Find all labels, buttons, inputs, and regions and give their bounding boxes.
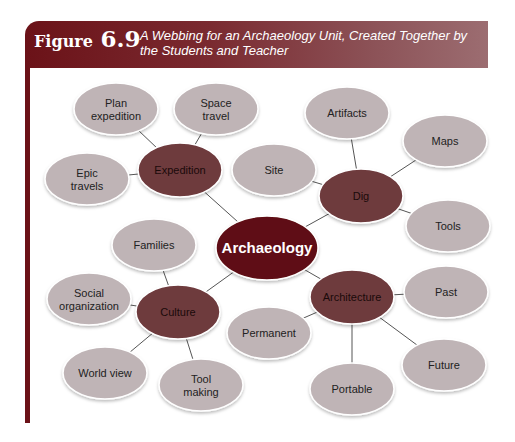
- leaf-node-world-view-label: World view: [78, 367, 132, 379]
- subtopic-node-dig-label: Dig: [353, 190, 370, 202]
- center-node-archaeology-label: Archaeology: [222, 239, 314, 256]
- leaf-node-tool-making-label: Tool: [191, 373, 211, 385]
- leaf-node-social-organization-label: Social: [74, 287, 104, 299]
- leaf-node-future-label: Future: [428, 359, 460, 371]
- subtopic-node-culture-label: Culture: [160, 306, 195, 318]
- leaf-node-space-travel: Spacetravel: [174, 83, 258, 135]
- leaf-node-artifacts: Artifacts: [305, 87, 389, 139]
- leaf-node-permanent: Permanent: [227, 307, 311, 359]
- leaf-node-plan-expedition-label: expedition: [91, 110, 141, 122]
- webbing-diagram: PlanexpeditionSpacetravelEpictravelsArti…: [0, 0, 515, 442]
- subtopic-node-expedition-label: Expedition: [154, 164, 205, 176]
- leaf-node-plan-expedition-label: Plan: [105, 97, 127, 109]
- leaf-node-site-label: Site: [265, 164, 284, 176]
- leaf-node-tools-label: Tools: [435, 220, 461, 232]
- subtopic-node-dig: Dig: [319, 169, 403, 223]
- leaf-node-social-organization: Socialorganization: [47, 273, 131, 325]
- leaf-node-tool-making-label: making: [183, 386, 218, 398]
- center-node-archaeology: Archaeology: [216, 216, 318, 280]
- leaf-node-social-organization-label: organization: [59, 300, 119, 312]
- leaf-node-plan-expedition: Planexpedition: [74, 83, 158, 135]
- leaf-node-portable-label: Portable: [332, 383, 373, 395]
- leaf-node-maps: Maps: [403, 115, 487, 167]
- leaf-node-future: Future: [402, 339, 486, 391]
- subtopic-node-expedition: Expedition: [138, 143, 222, 197]
- leaf-node-portable: Portable: [310, 363, 394, 415]
- leaf-node-permanent-label: Permanent: [242, 327, 296, 339]
- leaf-node-past-label: Past: [435, 286, 457, 298]
- leaf-node-families-label: Families: [134, 239, 175, 251]
- leaf-node-families: Families: [112, 219, 196, 271]
- leaf-node-site: Site: [232, 144, 316, 196]
- leaf-node-tools: Tools: [406, 200, 490, 252]
- leaf-node-space-travel-label: Space: [200, 97, 231, 109]
- subtopic-node-architecture: Architecture: [310, 270, 394, 324]
- leaf-node-artifacts-label: Artifacts: [327, 107, 367, 119]
- leaf-node-past: Past: [404, 266, 488, 318]
- subtopic-node-architecture-label: Architecture: [323, 291, 382, 303]
- leaf-node-world-view: World view: [63, 347, 147, 399]
- leaf-node-epic-travels-label: Epic: [76, 167, 98, 179]
- subtopic-node-culture: Culture: [136, 285, 220, 339]
- nodes-layer: PlanexpeditionSpacetravelEpictravelsArti…: [45, 83, 490, 415]
- leaf-node-epic-travels-label: travels: [71, 180, 104, 192]
- leaf-node-space-travel-label: travel: [203, 110, 230, 122]
- leaf-node-epic-travels: Epictravels: [45, 153, 129, 205]
- leaf-node-maps-label: Maps: [432, 135, 459, 147]
- leaf-node-tool-making: Toolmaking: [159, 359, 243, 411]
